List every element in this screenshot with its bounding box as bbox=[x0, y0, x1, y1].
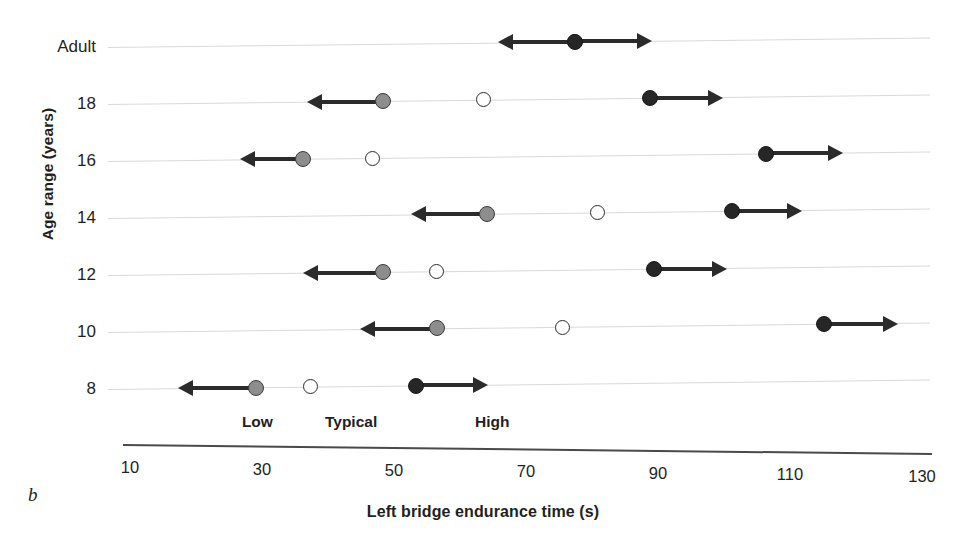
data-point-high bbox=[724, 203, 740, 219]
data-point-typical bbox=[429, 264, 444, 279]
range-arrow-high bbox=[650, 91, 723, 105]
row-guide-line bbox=[108, 266, 930, 276]
range-arrow-high bbox=[575, 34, 652, 48]
y-axis-tick-label: 8 bbox=[0, 380, 96, 397]
range-arrow-high bbox=[654, 262, 727, 276]
panel-letter: b bbox=[28, 484, 38, 506]
arrow-head-icon bbox=[360, 321, 375, 337]
arrow-shaft bbox=[315, 271, 383, 275]
x-axis-tick-label: 70 bbox=[517, 462, 535, 481]
data-point-low bbox=[375, 264, 391, 280]
data-point-typical bbox=[476, 92, 491, 107]
data-point-high bbox=[646, 261, 662, 277]
range-arrow-low bbox=[411, 207, 487, 221]
arrow-head-icon bbox=[637, 33, 652, 49]
arrow-head-icon bbox=[883, 316, 898, 332]
y-axis-tick-label: 14 bbox=[0, 209, 96, 226]
y-axis-tick-label: 18 bbox=[0, 95, 96, 112]
range-arrow-adult-left bbox=[498, 35, 575, 49]
arrow-shaft bbox=[190, 386, 256, 390]
arrow-shaft bbox=[423, 212, 487, 216]
data-point-high bbox=[758, 146, 774, 162]
data-point-low bbox=[479, 206, 495, 222]
x-axis-tick-label: 130 bbox=[908, 467, 936, 486]
data-point-low bbox=[429, 320, 445, 336]
arrow-head-icon bbox=[307, 94, 322, 110]
x-axis-tick-label: 30 bbox=[253, 460, 271, 479]
arrow-head-icon bbox=[828, 145, 843, 161]
range-arrow-low bbox=[178, 381, 256, 395]
x-axis-line bbox=[123, 444, 932, 455]
range-arrow-low bbox=[240, 152, 303, 166]
legend-label-high: High bbox=[475, 413, 509, 431]
row-guide-line bbox=[108, 209, 930, 219]
arrow-shaft bbox=[575, 39, 640, 43]
y-axis-tick-label: Adult bbox=[0, 38, 96, 55]
arrow-shaft bbox=[650, 96, 711, 100]
arrow-head-icon bbox=[178, 380, 193, 396]
x-axis-tick-label: 10 bbox=[121, 458, 139, 477]
legend-label-low: Low bbox=[242, 413, 273, 431]
arrow-shaft bbox=[319, 100, 383, 104]
y-axis-tick-label: 10 bbox=[0, 323, 96, 340]
x-axis-title: Left bridge endurance time (s) bbox=[0, 503, 966, 521]
data-point-low bbox=[375, 93, 391, 109]
chart-figure: Age range (years) Adult18161412108 10305… bbox=[0, 0, 966, 550]
x-axis-tick-label: 110 bbox=[777, 465, 803, 484]
data-point-high bbox=[642, 90, 658, 106]
range-arrow-low bbox=[303, 266, 383, 280]
data-point-typical bbox=[555, 320, 570, 335]
data-point-typical bbox=[303, 379, 318, 394]
x-axis-tick-label: 90 bbox=[649, 464, 667, 483]
range-arrow-low bbox=[307, 95, 383, 109]
data-point-typical bbox=[590, 205, 605, 220]
arrow-head-icon bbox=[498, 34, 513, 50]
arrow-shaft bbox=[416, 383, 476, 387]
arrow-shaft bbox=[824, 322, 886, 326]
arrow-head-icon bbox=[712, 261, 727, 277]
arrow-shaft bbox=[766, 151, 831, 155]
x-axis-tick-label: 50 bbox=[385, 461, 403, 480]
arrow-shaft bbox=[372, 327, 437, 331]
y-axis-tick-label: 12 bbox=[0, 266, 96, 283]
row-guide-line bbox=[108, 95, 930, 105]
legend-label-typical: Typical bbox=[325, 413, 377, 431]
range-arrow-high bbox=[766, 146, 843, 160]
data-point-high bbox=[567, 34, 583, 50]
data-point-high bbox=[408, 378, 424, 394]
row-guide-line bbox=[108, 323, 930, 333]
y-axis-tick-label: 16 bbox=[0, 152, 96, 169]
arrow-head-icon bbox=[473, 377, 488, 393]
range-arrow-low bbox=[360, 322, 437, 336]
range-arrow-high bbox=[824, 317, 898, 331]
arrow-head-icon bbox=[411, 206, 426, 222]
data-point-low bbox=[248, 380, 264, 396]
data-point-typical bbox=[365, 151, 380, 166]
arrow-shaft bbox=[510, 40, 575, 44]
data-point-low bbox=[295, 151, 311, 167]
range-arrow-high bbox=[416, 378, 488, 392]
arrow-head-icon bbox=[708, 90, 723, 106]
arrow-head-icon bbox=[240, 151, 255, 167]
arrow-head-icon bbox=[303, 265, 318, 281]
arrow-shaft bbox=[654, 267, 715, 271]
arrow-shaft bbox=[732, 209, 790, 213]
arrow-head-icon bbox=[787, 203, 802, 219]
range-arrow-high bbox=[732, 204, 802, 218]
